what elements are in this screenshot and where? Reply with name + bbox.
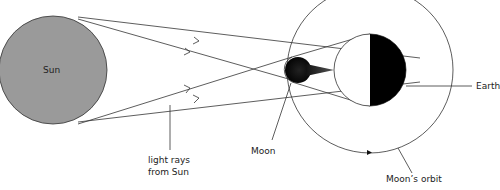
arrow-icon: [193, 95, 199, 103]
light-rays-label-line2: from Sun: [148, 167, 189, 177]
moon: [284, 57, 334, 83]
orbit-direction-arrow-icon: [367, 150, 372, 155]
moon-orbit-label: Moon’s orbit: [386, 174, 442, 184]
sun-label: Sun: [43, 65, 60, 75]
earth-label: Earth: [476, 81, 500, 91]
moon-shadow-cone: [306, 64, 334, 76]
arrow-icon: [184, 48, 190, 55]
eclipse-diagram: Sun Earth Moon light rays from Sun Moon’…: [0, 0, 500, 190]
arrow-icon: [184, 85, 190, 93]
moon-label: Moon: [251, 146, 275, 156]
label-leaders: [170, 83, 472, 173]
light-rays-label-line1: light rays: [148, 155, 190, 165]
earth: [334, 34, 406, 106]
arrow-icon: [193, 37, 199, 44]
